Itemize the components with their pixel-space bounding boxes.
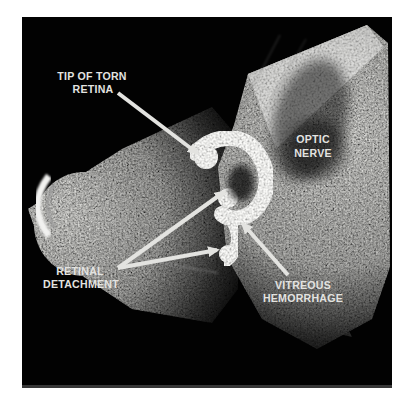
figure-page: TIP OF TORN RETINA OPTIC NERVE RETINAL D… <box>0 0 415 406</box>
ocular-b-scan-ultrasound: TIP OF TORN RETINA OPTIC NERVE RETINAL D… <box>22 17 392 388</box>
scan-bottom-edge <box>22 385 392 388</box>
scleral-echo-patch <box>34 172 134 276</box>
label-optic-nerve-line2: NERVE <box>294 147 332 159</box>
label-vitreous-hemorrhage-line1: VITREOUS <box>275 279 331 291</box>
label-tip-of-torn-retina-line2: RETINA <box>73 83 114 95</box>
retina-tip-echo <box>194 145 218 169</box>
funnel-dark-center <box>228 165 254 201</box>
label-vitreous-hemorrhage-line2: HEMORRHAGE <box>263 292 343 304</box>
label-optic-nerve-line1: OPTIC <box>296 133 330 145</box>
label-tip-of-torn-retina-line1: TIP OF TORN <box>57 70 126 82</box>
label-retinal-detachment-line1: RETINAL <box>56 265 104 277</box>
label-retinal-detachment-line2: DETACHMENT <box>43 278 119 290</box>
inferior-membrane-echo <box>219 245 237 263</box>
ultrasound-scan-frame: TIP OF TORN RETINA OPTIC NERVE RETINAL D… <box>22 17 392 388</box>
